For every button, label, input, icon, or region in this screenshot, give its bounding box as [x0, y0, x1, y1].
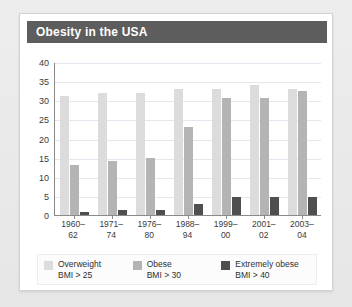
legend-swatch-icon — [44, 261, 53, 270]
chart-title-bar: Obesity in the USA — [27, 21, 327, 43]
x-axis-labels: 1960–621971–741976–801988–941999–002001–… — [54, 216, 321, 242]
bar-group — [169, 63, 207, 215]
legend-item[interactable]: ObeseBMI > 30 — [133, 259, 222, 281]
bar[interactable] — [70, 165, 79, 215]
plot-area: 0510152025303540 1960–621971–741976–8019… — [27, 57, 327, 242]
bar[interactable] — [194, 204, 203, 215]
y-axis-tick-label: 40 — [27, 58, 49, 68]
bar[interactable] — [232, 197, 241, 215]
y-axis-tick-label: 15 — [27, 154, 49, 164]
page-background: Obesity in the USA 0510152025303540 1960… — [0, 0, 352, 307]
legend-swatch-icon — [221, 261, 230, 270]
y-axis-tick-label: 0 — [27, 211, 49, 221]
bar[interactable] — [260, 98, 269, 215]
bar-group — [55, 63, 93, 215]
x-axis-tick-label: 1971–74 — [92, 216, 130, 242]
bar[interactable] — [288, 89, 297, 215]
bar[interactable] — [118, 210, 127, 215]
bar[interactable] — [60, 96, 69, 215]
bar[interactable] — [98, 93, 107, 215]
x-axis-tick-label: 1976–80 — [130, 216, 168, 242]
y-axis-tick-label: 30 — [27, 96, 49, 106]
plot-canvas — [54, 63, 321, 216]
y-axis-tick-label: 20 — [27, 135, 49, 145]
bar[interactable] — [270, 197, 279, 215]
legend-swatch-icon — [133, 261, 142, 270]
bar[interactable] — [136, 93, 145, 215]
bar[interactable] — [308, 197, 317, 215]
chart-card: Obesity in the USA 0510152025303540 1960… — [19, 13, 333, 291]
bar[interactable] — [108, 161, 117, 215]
bar[interactable] — [174, 89, 183, 215]
bar[interactable] — [212, 89, 221, 215]
x-axis-tick-label: 2003–04 — [283, 216, 321, 242]
bar[interactable] — [250, 85, 259, 215]
y-axis-tick-label: 5 — [27, 192, 49, 202]
bar[interactable] — [222, 98, 231, 215]
bar-group — [131, 63, 169, 215]
y-axis-tick-label: 35 — [27, 77, 49, 87]
bar[interactable] — [298, 91, 307, 215]
y-axis-tick-label: 10 — [27, 173, 49, 183]
x-axis-tick-label: 1960–62 — [54, 216, 92, 242]
page-title: Obesity in the USA — [27, 25, 148, 39]
bar-group — [93, 63, 131, 215]
bar-group — [245, 63, 283, 215]
y-axis-tick-label: 25 — [27, 115, 49, 125]
chart-subtitle — [32, 45, 322, 56]
bar[interactable] — [184, 127, 193, 215]
legend-label: ObeseBMI > 30 — [147, 259, 181, 281]
bar[interactable] — [80, 212, 89, 215]
legend-label: Extremely obeseBMI > 40 — [235, 259, 298, 281]
legend-item[interactable]: OverweightBMI > 25 — [44, 259, 133, 281]
bar-groups — [55, 63, 321, 215]
legend-item[interactable]: Extremely obeseBMI > 40 — [221, 259, 310, 281]
bar-group — [207, 63, 245, 215]
bar[interactable] — [146, 158, 155, 215]
x-axis-tick-label: 1988–94 — [168, 216, 206, 242]
chart-legend: OverweightBMI > 25ObeseBMI > 30Extremely… — [37, 254, 317, 285]
bar[interactable] — [156, 210, 165, 215]
x-axis-tick-label: 1999–00 — [207, 216, 245, 242]
bar-group — [283, 63, 321, 215]
legend-label: OverweightBMI > 25 — [58, 259, 101, 281]
x-axis-tick-label: 2001–02 — [245, 216, 283, 242]
